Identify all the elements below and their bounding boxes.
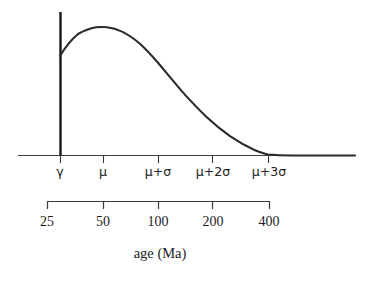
scale-number-50: 50 xyxy=(96,215,110,229)
scale-number-200: 200 xyxy=(203,215,224,229)
figure-background xyxy=(0,0,369,284)
axis-tick-label-mu: μ xyxy=(99,166,107,179)
age-axis-caption: age (Ma) xyxy=(134,246,187,261)
distribution-figure xyxy=(0,0,369,284)
axis-tick-label-gamma: γ xyxy=(56,166,63,179)
scale-number-100: 100 xyxy=(148,215,169,229)
scale-number-400: 400 xyxy=(259,215,280,229)
axis-tick-label-mu-plus-2sigma: μ+2σ xyxy=(196,166,230,179)
axis-tick-label-mu-plus-3sigma: μ+3σ xyxy=(252,166,286,179)
scale-number-25: 25 xyxy=(40,215,54,229)
axis-tick-label-mu-plus-sigma: μ+σ xyxy=(145,166,171,179)
